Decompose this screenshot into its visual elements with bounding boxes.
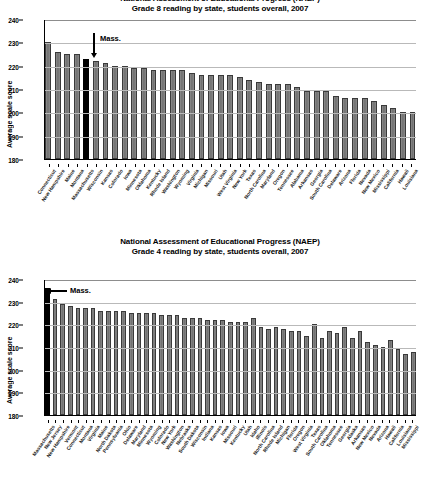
x-tick-mark — [344, 164, 345, 167]
x-tick-mark — [335, 164, 336, 167]
bar — [327, 331, 332, 415]
bar — [350, 338, 355, 415]
x-tick-mark — [325, 164, 326, 167]
x-tick-mark — [49, 164, 50, 167]
plot-area-grade4 — [44, 280, 416, 416]
bar — [179, 70, 185, 159]
mass-arrow-grade4 — [51, 290, 67, 292]
bar — [103, 63, 109, 159]
x-tick-mark — [373, 164, 374, 167]
y-tick-label: 200 — [8, 110, 19, 117]
chart-title-grade4-line2: Grade 4 reading by state, students overa… — [0, 247, 440, 257]
bar — [243, 322, 248, 415]
y-tick-mark — [19, 20, 23, 21]
y-tick-mark — [19, 370, 23, 371]
gridline — [45, 113, 416, 114]
mass-annotation-grade4: Mass. — [70, 286, 91, 295]
x-tick-mark — [374, 420, 375, 423]
x-tick-mark — [86, 420, 87, 423]
y-tick-mark — [19, 160, 23, 161]
x-tick-mark — [116, 420, 117, 423]
mass-arrow-grade8 — [93, 33, 95, 54]
x-tick-mark — [389, 420, 390, 423]
bar — [189, 73, 195, 159]
bar — [98, 311, 103, 415]
x-tick-mark — [306, 164, 307, 167]
x-tick-mark — [222, 420, 223, 423]
x-tick-mark — [314, 420, 315, 423]
bar — [182, 318, 187, 415]
x-tick-mark — [48, 420, 49, 423]
x-tick-mark — [220, 164, 221, 167]
x-tick-mark — [367, 420, 368, 423]
bar — [64, 54, 70, 159]
bar — [251, 318, 256, 415]
bar — [129, 313, 134, 415]
x-tick-mark — [125, 164, 126, 167]
gridline — [45, 43, 416, 44]
bar — [335, 333, 340, 415]
x-tick-mark — [329, 420, 330, 423]
x-tick-mark — [135, 164, 136, 167]
x-tick-mark — [382, 420, 383, 423]
y-tick-label: 190 — [8, 390, 19, 397]
bar — [381, 347, 386, 415]
x-tick-mark — [238, 420, 239, 423]
x-tick-mark — [78, 420, 79, 423]
x-tick-mark — [106, 164, 107, 167]
x-tick-mark — [276, 420, 277, 423]
bar — [228, 322, 233, 415]
x-tick-mark — [297, 164, 298, 167]
bar — [74, 54, 80, 159]
y-tick-label: 180 — [8, 413, 19, 420]
x-tick-mark — [298, 420, 299, 423]
x-tick-mark — [230, 164, 231, 167]
bar — [388, 340, 393, 415]
y-tick-label: 180 — [8, 157, 19, 164]
bar — [198, 318, 203, 415]
y-tick-mark — [19, 393, 23, 394]
bar — [167, 315, 172, 415]
bar — [396, 349, 401, 415]
bar — [352, 98, 358, 159]
bar — [342, 98, 348, 159]
x-tick-mark — [344, 420, 345, 423]
x-tick-mark — [77, 164, 78, 167]
bar — [205, 320, 210, 415]
x-tick-mark — [58, 164, 59, 167]
y-tick-mark — [19, 325, 23, 326]
x-tick-mark — [163, 164, 164, 167]
x-tick-mark — [215, 420, 216, 423]
x-tick-mark — [207, 420, 208, 423]
x-tick-mark — [402, 164, 403, 167]
x-tick-mark — [154, 420, 155, 423]
y-tick-label: 210 — [8, 345, 19, 352]
gridline — [45, 67, 416, 68]
bar — [275, 84, 281, 159]
x-tick-mark — [109, 420, 110, 423]
y-tick-label: 190 — [8, 133, 19, 140]
y-axis-grade4: 180190200210220230240 — [0, 280, 22, 416]
x-tick-mark — [177, 420, 178, 423]
x-tick-mark — [68, 164, 69, 167]
bar — [55, 52, 61, 159]
bar — [314, 91, 320, 159]
gridline — [45, 325, 416, 326]
y-tick-mark — [19, 43, 23, 44]
bar — [266, 329, 271, 415]
y-tick-label: 210 — [8, 87, 19, 94]
x-tick-mark — [411, 164, 412, 167]
x-tick-mark — [63, 420, 64, 423]
bar — [160, 70, 166, 159]
gridline — [45, 137, 416, 138]
x-tick-mark — [200, 420, 201, 423]
y-tick-mark — [19, 416, 23, 417]
x-tick-mark — [283, 420, 284, 423]
gridline — [45, 393, 416, 394]
bar — [373, 345, 378, 415]
x-tick-mark — [260, 420, 261, 423]
bar — [285, 84, 291, 159]
chart-title-grade4-line1: National Assessment of Educational Progr… — [0, 237, 440, 247]
x-tick-mark — [116, 164, 117, 167]
bar — [227, 75, 233, 159]
